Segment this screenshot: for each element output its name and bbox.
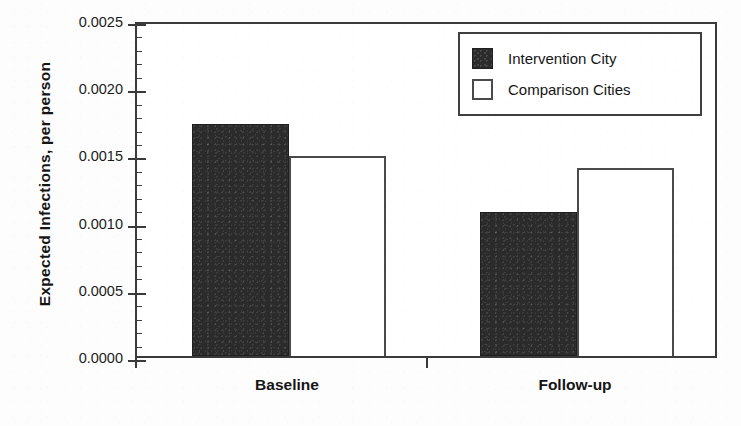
y-tick-mark — [137, 158, 146, 160]
y-tick-mark-minor — [137, 239, 142, 240]
y-tick-mark — [137, 24, 146, 26]
legend-swatch-intervention-city-icon — [472, 48, 493, 69]
y-tick-mark-minor — [137, 172, 142, 173]
legend-item: Intervention City — [472, 43, 688, 74]
y-axis-title: Expected Infections, per person — [36, 4, 54, 364]
legend-label-intervention-city: Intervention City — [508, 50, 616, 67]
y-tick-mark-outer — [128, 91, 137, 93]
y-tick-mark-minor — [137, 78, 142, 79]
y-tick-mark-minor — [137, 199, 142, 200]
chart-legend: Intervention City Comparison Cities — [458, 32, 702, 116]
bar-baseline-comparison-cities — [289, 156, 386, 356]
y-tick-mark-minor — [137, 306, 142, 307]
y-tick-mark-outer — [128, 24, 137, 26]
y-tick-label: 0.0020 — [3, 81, 123, 97]
y-tick-mark-minor — [137, 320, 142, 321]
bar-follow-up-comparison-cities — [577, 168, 674, 356]
y-tick-mark-minor — [137, 105, 142, 106]
y-tick-mark-outer — [128, 158, 137, 160]
legend-item: Comparison Cities — [472, 74, 688, 105]
y-tick-label: 0.0005 — [3, 283, 123, 299]
y-tick-label: 0.0025 — [3, 14, 123, 30]
y-tick-mark — [137, 360, 146, 362]
y-tick-mark — [137, 293, 146, 295]
x-category-label-baseline: Baseline — [255, 376, 319, 394]
y-tick-label: 0.0015 — [3, 148, 123, 164]
y-tick-mark-minor — [137, 347, 142, 348]
bar-follow-up-intervention-city — [480, 212, 577, 356]
y-tick-mark-minor — [137, 132, 142, 133]
y-tick-mark-minor — [137, 37, 142, 38]
y-tick-mark-minor — [137, 51, 142, 52]
y-tick-mark-minor — [137, 118, 142, 119]
y-tick-mark-minor — [137, 64, 142, 65]
y-tick-mark — [137, 226, 146, 228]
y-tick-mark-minor — [137, 252, 142, 253]
x-category-label-follow-up: Follow-up — [538, 376, 611, 394]
y-tick-mark-minor — [137, 185, 142, 186]
y-tick-mark-minor — [137, 212, 142, 213]
y-tick-label: 0.0010 — [3, 216, 123, 232]
y-tick-label: 0.0000 — [3, 350, 123, 366]
y-tick-mark-outer — [128, 226, 137, 228]
y-tick-mark-minor — [137, 145, 142, 146]
x-tick-mark — [135, 358, 137, 368]
y-tick-mark-minor — [137, 266, 142, 267]
legend-swatch-comparison-cities-icon — [472, 79, 493, 100]
y-tick-mark-minor — [137, 333, 142, 334]
y-tick-mark — [137, 91, 146, 93]
y-tick-mark-outer — [128, 293, 137, 295]
bar-baseline-intervention-city — [192, 124, 289, 357]
x-tick-mark — [426, 358, 428, 368]
bar-chart-figure: Expected Infections, per person 0.00000.… — [0, 0, 741, 426]
legend-label-comparison-cities: Comparison Cities — [508, 81, 631, 98]
y-tick-mark-minor — [137, 279, 142, 280]
